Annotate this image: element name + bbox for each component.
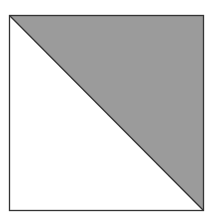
split-square-diagram bbox=[0, 0, 214, 220]
